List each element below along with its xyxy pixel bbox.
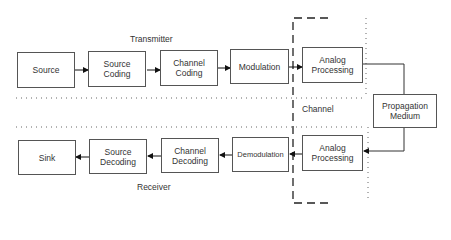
channel-label: Channel [302, 104, 334, 114]
channel-decoding-block: Channel Decoding [161, 138, 219, 173]
receiver-label: Receiver [137, 182, 171, 192]
sink-block: Sink [18, 140, 76, 175]
source-coding-block: Source Coding [88, 51, 146, 87]
channel-coding-block: Channel Coding [160, 50, 218, 86]
transmitter-label: Transmitter [130, 34, 173, 44]
source-decoding-block: Source Decoding [89, 139, 147, 174]
demodulation-block: Demodulation [232, 137, 289, 172]
propagation-medium-block: Propagation Medium [373, 94, 437, 128]
source-block: Source [17, 52, 75, 88]
rx-analog-processing-block: Analog Processing [302, 135, 363, 171]
modulation-block: Modulation [230, 49, 289, 84]
tx-analog-processing-block: Analog Processing [302, 47, 363, 83]
